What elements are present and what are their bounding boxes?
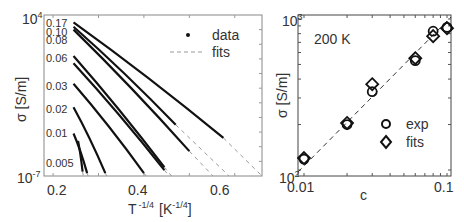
left-series-labels: 0.170.100.080.060.030.020.010.005 [46,17,74,169]
series-label: 0.06 [46,52,67,64]
right-panel: 103 102 0.01 0.1 c σ [S/m] 200 K exp fit… [274,12,454,203]
figure: 0.170.100.080.060.030.020.010.005 104 10… [0,0,464,222]
data-curve [74,27,176,125]
legend-dot-icon [186,33,190,37]
left-xtick-1: 0.4 [128,182,148,198]
left-ytick-bottom: 10-7 [17,169,41,186]
legend-label-exp: exp [406,116,429,132]
fit-dashed-line [164,170,169,176]
temperature-annotation: 200 K [314,31,351,47]
fit-dashed-line [189,151,213,176]
right-xtick-0: 0.01 [287,179,314,195]
data-curve [74,30,190,151]
series-label: 0.03 [46,80,67,92]
series-label: 0.005 [46,157,74,169]
left-ytick-top: 104 [22,10,43,27]
right-legend: exp fits [381,116,429,150]
fit-dashed-line [223,138,262,176]
series-label: 0.08 [46,34,67,46]
left-xtick-2: 0.6 [210,182,230,198]
left-legend: data fits [170,27,239,60]
series-label: 0.02 [46,103,67,115]
data-curve [74,56,165,167]
left-xlabel: T-1/4[K-1/4] [128,200,192,217]
right-ylabel: σ [S/m] [274,73,290,118]
fit-dashed-line [83,172,84,176]
left-xtick-0: 0.2 [47,182,67,198]
legend-label-fits: fits [212,44,230,60]
right-xtick-1: 0.1 [434,179,454,195]
exp-point [368,87,377,96]
legend-circle-icon [382,120,390,128]
left-panel: 0.170.100.080.060.030.020.010.005 104 10… [13,10,262,217]
right-xlabel: c [360,187,367,203]
legend-diamond-icon [381,136,391,148]
data-curve [74,22,224,138]
left-data-curves [74,22,262,176]
legend-label-data: data [212,27,239,43]
left-ylabel: σ [S/m] [13,77,29,122]
right-ytick-top: 103 [282,12,303,29]
legend-label-fits-right: fits [406,134,424,150]
fit-dashed-line [176,125,229,176]
series-label: 0.01 [46,127,67,139]
